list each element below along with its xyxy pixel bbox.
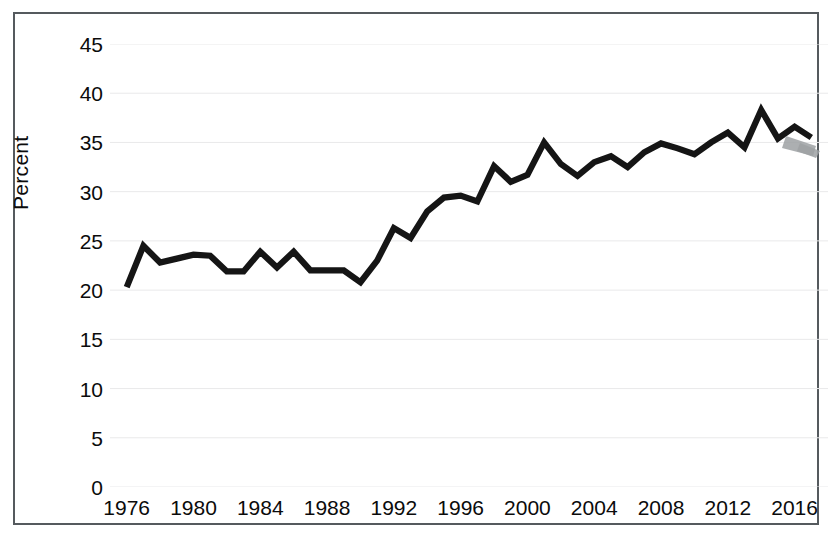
chart-frame: Percent 454035302520151050 1976198019841… (13, 12, 819, 525)
x-tick-label: 1992 (371, 497, 418, 518)
ink-smudge-icon (782, 136, 820, 158)
y-tick-label: 35 (59, 132, 103, 153)
y-axis-title: Percent (9, 136, 33, 210)
x-axis-tick-labels: 1976198019841988199219962000200420082012… (110, 497, 828, 527)
y-tick-label: 45 (59, 34, 103, 55)
plot-area (110, 44, 828, 487)
y-axis-tick-labels: 454035302520151050 (53, 44, 103, 487)
chart-figure: Percent 454035302520151050 1976198019841… (0, 0, 835, 548)
y-tick-label: 0 (59, 477, 103, 498)
y-tick-label: 10 (59, 378, 103, 399)
x-tick-label: 2004 (571, 497, 618, 518)
series-svg (110, 44, 828, 487)
y-tick-label: 5 (59, 427, 103, 448)
y-tick-label: 20 (59, 280, 103, 301)
x-tick-label: 2000 (504, 497, 551, 518)
y-tick-label: 25 (59, 230, 103, 251)
x-tick-label: 1996 (437, 497, 484, 518)
y-tick-label: 40 (59, 83, 103, 104)
data-series-line (127, 110, 812, 287)
y-tick-label: 30 (59, 181, 103, 202)
x-tick-label: 2012 (704, 497, 751, 518)
x-tick-label: 1980 (170, 497, 217, 518)
x-tick-label: 1988 (304, 497, 351, 518)
x-tick-label: 2016 (771, 497, 818, 518)
y-tick-label: 15 (59, 329, 103, 350)
x-tick-label: 1984 (237, 497, 284, 518)
x-tick-label: 1976 (103, 497, 150, 518)
x-tick-label: 2008 (638, 497, 685, 518)
